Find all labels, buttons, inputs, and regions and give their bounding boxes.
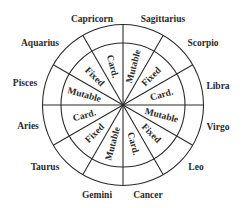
sign-label-capricorn: Capricorn: [71, 14, 114, 24]
modality-label-aquarius: Fixed: [83, 65, 107, 89]
sector-dividers: [43, 25, 204, 186]
modality-label-sagittarius: Mutable: [124, 48, 143, 84]
sign-label-aquarius: Aquarius: [21, 38, 59, 48]
modality-label-cancer: Card.: [125, 131, 141, 156]
zodiac-wheel: Card. Fixed Mutable Card. Fixed Mutable …: [0, 0, 243, 208]
modality-label-leo: Fixed: [140, 122, 164, 146]
sign-label-gemini: Gemini: [82, 190, 112, 200]
sign-label-taurus: Taurus: [31, 162, 60, 172]
sign-label-leo: Leo: [188, 162, 204, 172]
modality-label-capricorn: Card.: [105, 54, 121, 79]
sign-label-aries: Aries: [17, 121, 39, 131]
modality-label-pisces: Mutable: [66, 85, 102, 104]
sign-label-pisces: Pisces: [13, 78, 38, 88]
sign-label-sagittarius: Sagittarius: [141, 14, 186, 24]
sign-label-scorpio: Scorpio: [187, 38, 218, 48]
sign-label-cancer: Cancer: [133, 190, 163, 200]
modality-label-gemini: Mutable: [103, 126, 122, 162]
sign-label-libra: Libra: [206, 81, 229, 91]
modality-label-virgo: Mutable: [144, 106, 180, 125]
modality-label-scorpio: Fixed: [140, 65, 164, 89]
sign-label-virgo: Virgo: [207, 122, 230, 132]
modality-label-libra: Card.: [149, 87, 174, 103]
modality-label-taurus: Fixed: [83, 121, 107, 145]
modality-label-aries: Card.: [72, 107, 97, 123]
